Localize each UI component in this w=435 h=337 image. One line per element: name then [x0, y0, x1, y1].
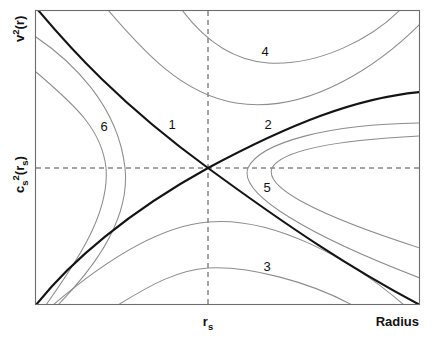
solution-topology-plot: 1 2 3 4 5 6 v2(r) cs2(rs) rs Radius — [0, 0, 435, 337]
curve-label-3: 3 — [263, 259, 270, 274]
y-axis-label-velocity-arg: (r) — [12, 16, 27, 30]
y-axis-label-velocity: v2(r) — [10, 16, 27, 42]
x-axis-tick-critical-radius: rs — [203, 314, 213, 332]
curve-label-6: 6 — [100, 119, 107, 134]
x-critical-sub: s — [208, 321, 213, 332]
svg-text:cs2(rs): cs2(rs) — [10, 156, 30, 193]
curve-label-1: 1 — [168, 117, 175, 132]
figure-container: 1 2 3 4 5 6 v2(r) cs2(rs) rs Radius — [0, 0, 435, 337]
y-critical-main: c — [12, 186, 27, 193]
y-critical-arg-open: (r — [12, 166, 27, 175]
svg-text:v2(r): v2(r) — [10, 16, 27, 42]
y-axis-label-critical-speed: cs2(rs) — [10, 156, 30, 193]
y-critical-arg-close: ) — [12, 156, 27, 160]
curve-label-2: 2 — [264, 117, 271, 132]
curve-label-5: 5 — [263, 180, 270, 195]
x-axis-label-radius: Radius — [376, 314, 419, 329]
curve-label-4: 4 — [261, 44, 268, 59]
